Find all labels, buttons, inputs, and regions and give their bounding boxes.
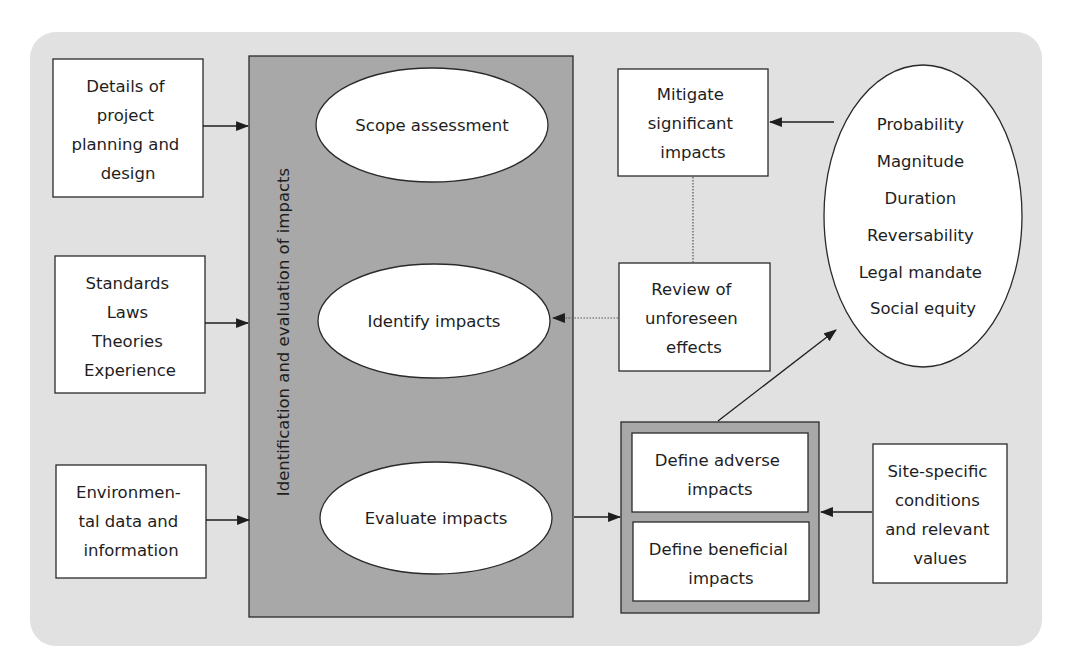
mitigate-impacts-box: Mitigate significant impacts	[618, 69, 768, 176]
input-environmental-data: Environmen- tal data and information	[56, 465, 206, 578]
svg-text:Scope assessment: Scope assessment	[355, 116, 509, 135]
define-impacts-container: Define adverse impacts Define beneficial…	[621, 422, 819, 613]
criteria-ellipse: Probability Magnitude Duration Reversabi…	[824, 65, 1022, 367]
step-evaluate-impacts: Evaluate impacts	[320, 462, 552, 574]
define-beneficial-impacts-box: Define beneficial impacts	[633, 522, 809, 601]
criterion-legal-mandate: Legal mandate	[859, 263, 982, 282]
criterion-reversability: Reversability	[867, 226, 974, 245]
review-unforeseen-effects-box: Review of unforeseen effects	[619, 263, 770, 371]
step-scope-assessment: Scope assessment	[316, 68, 548, 182]
svg-text:Environmen- tal data and: Environmen- tal data and information	[76, 483, 186, 560]
svg-text:Identify impacts: Identify impacts	[368, 312, 501, 331]
input-project-details: Details of project planning and design	[53, 59, 203, 197]
criterion-magnitude: Magnitude	[877, 152, 964, 171]
criterion-social-equity: Social equity	[870, 299, 976, 318]
define-adverse-impacts-box: Define adverse impacts	[632, 433, 808, 512]
site-specific-conditions-box: Site-specific conditions and relevant va…	[873, 444, 1007, 583]
svg-text:Evaluate impacts: Evaluate impacts	[365, 509, 508, 528]
svg-text:Mitigate significant: Mitigate significant impacts	[648, 85, 738, 162]
impact-assessment-diagram: Identification and evaluation of impacts…	[0, 0, 1070, 670]
criterion-duration: Duration	[885, 189, 957, 208]
input-standards: Standards Laws Theories Experience	[55, 256, 205, 393]
step-identify-impacts: Identify impacts	[318, 264, 550, 378]
criterion-probability: Probability	[877, 115, 964, 134]
central-panel-label: Identification and evaluation of impacts	[274, 168, 293, 496]
